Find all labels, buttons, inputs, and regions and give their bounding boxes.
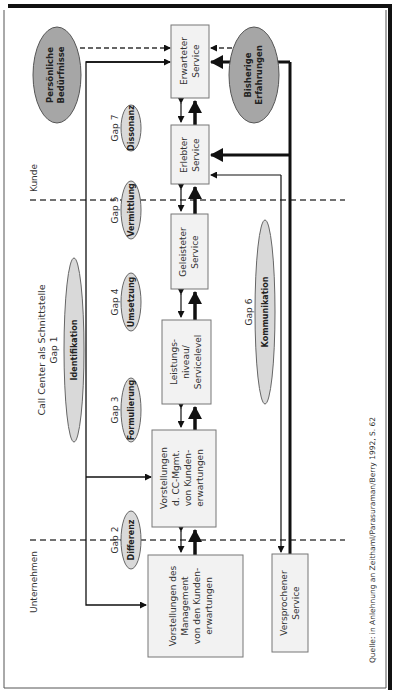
box-vorstellungen-management: Vorstellungen des Management von den Kun… bbox=[148, 555, 243, 657]
svg-text:Gap 1: Gap 1 bbox=[49, 337, 59, 364]
ellipse-bisherige-erfahrungen: Bisherige Erfahrungen bbox=[229, 27, 279, 123]
svg-text:Gap 7: Gap 7 bbox=[110, 115, 120, 142]
svg-text:Bedürfnisse: Bedürfnisse bbox=[56, 46, 66, 103]
box-erwarteter-service: Erwarteter Service bbox=[171, 25, 209, 98]
zone-label-kunde: Kunde bbox=[29, 163, 39, 192]
svg-text:Servicelevel: Servicelevel bbox=[193, 335, 203, 390]
svg-text:Identifikation: Identifikation bbox=[70, 319, 79, 380]
svg-text:Geleisteter: Geleisteter bbox=[178, 227, 188, 277]
svg-text:Gap 2: Gap 2 bbox=[110, 527, 120, 554]
box-erlebter-service: Erlebter Service bbox=[171, 125, 209, 184]
box-geleisteter-service: Geleisteter Service bbox=[171, 214, 208, 289]
box-leistungsniveau: Leistungs- niveau/ Servicelevel bbox=[162, 320, 211, 404]
svg-text:Management: Management bbox=[180, 576, 190, 636]
svg-text:Dissonanz: Dissonanz bbox=[127, 105, 136, 151]
gap-7-dissonanz: Gap 7 Dissonanz bbox=[110, 105, 141, 151]
svg-text:von den Kunden-: von den Kunden- bbox=[192, 568, 202, 644]
svg-text:Service: Service bbox=[291, 586, 301, 620]
svg-text:Erlebter: Erlebter bbox=[179, 137, 189, 173]
svg-text:Gap 5: Gap 5 bbox=[110, 197, 120, 224]
ellipse-persoenliche-beduerfnisse: Persönliche Bedürfnisse bbox=[33, 27, 81, 123]
svg-text:d. CC-Mgmt.: d. CC-Mgmt. bbox=[171, 450, 181, 506]
svg-text:Persönliche: Persönliche bbox=[45, 47, 55, 103]
svg-text:Formulierung: Formulierung bbox=[127, 379, 136, 440]
svg-text:Umsetzung: Umsetzung bbox=[127, 276, 136, 327]
svg-text:Vorstellungen des: Vorstellungen des bbox=[168, 565, 178, 646]
svg-text:Gap 3: Gap 3 bbox=[110, 397, 120, 424]
box-versprochener-service: Versprochener Service bbox=[272, 554, 308, 652]
gap-5-vermittlung: Gap 5 Vermittlung bbox=[110, 181, 141, 239]
gap-4-umsetzung: Gap 4 Umsetzung bbox=[110, 273, 141, 331]
svg-text:Erfahrungen: Erfahrungen bbox=[254, 45, 264, 105]
svg-text:Call Center als Schnittstelle: Call Center als Schnittstelle bbox=[36, 284, 47, 415]
gap-2-differenz: Gap 2 Differenz bbox=[110, 511, 141, 569]
gap-6-kommunikation: Gap 6 Kommunikation bbox=[244, 220, 275, 404]
svg-text:Bisherige: Bisherige bbox=[243, 52, 253, 97]
svg-text:Kommunikation: Kommunikation bbox=[261, 276, 270, 347]
gap-model-diagram: Erwarteter Service Erlebter Service Gele… bbox=[0, 0, 394, 694]
svg-text:Gap 4: Gap 4 bbox=[110, 288, 120, 315]
svg-text:Leistungs-: Leistungs- bbox=[169, 339, 179, 385]
svg-text:Service: Service bbox=[191, 44, 201, 78]
gap-1-identifikation: Call Center als Schnittstelle Gap 1 Iden… bbox=[36, 258, 84, 442]
box-vorstellungen-cc-mgmt: Vorstellungen d. CC-Mgmt. von Kunden- er… bbox=[152, 430, 216, 527]
svg-text:niveau/: niveau/ bbox=[181, 344, 191, 378]
svg-text:Vorstellungen: Vorstellungen bbox=[159, 447, 169, 509]
svg-text:Service: Service bbox=[191, 138, 201, 172]
svg-text:von Kunden-: von Kunden- bbox=[183, 450, 193, 506]
svg-text:Erwarteter: Erwarteter bbox=[179, 37, 189, 85]
svg-text:Gap 6: Gap 6 bbox=[244, 298, 254, 325]
svg-text:Service: Service bbox=[190, 235, 200, 269]
svg-text:erwartungen: erwartungen bbox=[204, 577, 214, 635]
svg-text:Differenz: Differenz bbox=[127, 519, 136, 560]
gap-3-formulierung: Gap 3 Formulierung bbox=[110, 378, 141, 442]
svg-text:Vermittlung: Vermittlung bbox=[127, 183, 136, 237]
zone-label-unternehmen: Unternehmen bbox=[29, 551, 39, 613]
source-note: Quelle: in Anlehnung an Zeithaml/Parasur… bbox=[368, 417, 377, 663]
svg-text:Versprochener: Versprochener bbox=[279, 570, 289, 636]
svg-text:erwartungen: erwartungen bbox=[195, 449, 205, 507]
